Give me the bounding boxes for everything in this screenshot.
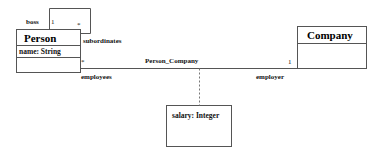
diagram-canvas — [0, 0, 382, 162]
person-class-attribute: name: String — [19, 48, 61, 56]
association-class-attribute: salary: Integer — [172, 112, 219, 120]
role-subordinates-label: subordinates — [83, 38, 122, 45]
role-employees-label: employees — [81, 74, 112, 81]
company-class-name: Company — [307, 30, 353, 41]
association-name-label: Person_Company — [145, 58, 198, 65]
multiplicity-subordinates: * — [77, 22, 81, 29]
uml-class-diagram: Person name: String Company salary: Inte… — [0, 0, 382, 162]
person-class-name: Person — [24, 33, 56, 44]
multiplicity-employees: * — [81, 59, 85, 66]
multiplicity-employer: 1 — [288, 59, 292, 66]
multiplicity-boss: 1 — [51, 19, 55, 26]
role-boss-label: boss — [26, 19, 39, 26]
role-employer-label: employer — [256, 74, 284, 81]
